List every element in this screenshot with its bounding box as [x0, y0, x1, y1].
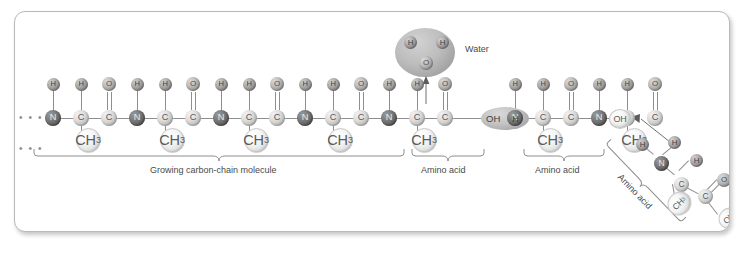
backbone-carbon-carbonyl-unit-4: C [353, 110, 369, 126]
methyl-group-unit-4-text: CH [327, 133, 348, 148]
bond-h-n-unit-4 [305, 91, 306, 111]
brace-amino-acid-2 [523, 148, 605, 162]
methyl-group-unit-1-text: CH [75, 133, 96, 148]
methyl-group-unit-5-text: CH [411, 133, 432, 148]
caption-amino-acid-1: Amino acid [421, 165, 466, 175]
incoming-hydrogen-2: H [668, 136, 681, 149]
backbone-carbon-carbonyl-unit-3: C [269, 110, 285, 126]
methyl-group-unit-5-subscript: 3 [432, 136, 437, 145]
bond-o-c-double-a-unit-4 [359, 92, 360, 110]
incoming-amino-acid-group: H H N H C CH3 C O OH [627, 132, 730, 232]
hydrogen-on-nitrogen-unit-1: H [47, 78, 60, 91]
diagram-stage: H H O Water • • • HHONCCCH3HHONCCCH3HHON… [0, 0, 750, 261]
incoming-oxygen: O [717, 173, 730, 187]
backbone-nitrogen-unit-4: N [297, 110, 313, 126]
bond-o-c-double-a-unit-2 [191, 92, 192, 110]
incoming-hydrogen-3: H [690, 154, 703, 167]
backbone-carbon-carbonyl-unit-2: C [185, 110, 201, 126]
chain-continuation-dots-left: • • • [19, 112, 43, 123]
bond-o-c-double-b-unit-2 [195, 92, 196, 110]
backbone-carbon-carbonyl-unit-5: C [437, 110, 453, 126]
backbone-carbon-alpha-unit-5: C [409, 110, 425, 126]
methyl-group-unit-1: CH3 [76, 128, 101, 153]
oxygen-on-carbon-unit-1: O [102, 77, 116, 91]
incoming-carbon-carboxyl: C [698, 189, 713, 204]
backbone-carbon-carbonyl-unit-6: C [563, 110, 579, 126]
bond-o-c-double-b-unit-1 [111, 92, 112, 110]
leaving-group-h-text: H [512, 113, 519, 124]
bond-o-c-double-b-unit-4 [363, 92, 364, 110]
methyl-group-unit-2: CH3 [160, 128, 185, 153]
bond-h-c-unit-5 [417, 91, 418, 111]
methyl-group-unit-2-subscript: 3 [180, 136, 185, 145]
hydrogen-on-carbon-unit-7: H [621, 78, 634, 91]
incoming-methyl-group: CH3 [663, 187, 697, 221]
methyl-group-unit-1-subscript: 3 [96, 136, 101, 145]
water-hydrogen-1: H [404, 36, 417, 49]
bond-h-n-unit-1 [53, 91, 54, 111]
hydrogen-on-carbon-unit-3: H [243, 78, 256, 91]
diagram-panel: H H O Water • • • HHONCCCH3HHONCCCH3HHON… [14, 11, 730, 232]
bond-o-c-double-a-unit-7 [653, 92, 654, 110]
bond-h-n-unit-2 [137, 91, 138, 111]
caption-growing-chain: Growing carbon-chain molecule [150, 165, 277, 175]
methyl-group-unit-6-subscript: 3 [558, 136, 563, 145]
methyl-group-unit-4-subscript: 3 [348, 136, 353, 145]
hydrogen-on-nitrogen-unit-6: H [509, 78, 522, 91]
methyl-group-unit-2-text: CH [159, 133, 180, 148]
incoming-hydroxyl-group: OH [714, 203, 730, 232]
hydrogen-on-carbon-unit-1: H [75, 78, 88, 91]
backbone-carbon-alpha-unit-1: C [73, 110, 89, 126]
hydrogen-on-carbon-unit-5: H [411, 78, 424, 91]
methyl-group-unit-4: CH3 [328, 128, 353, 153]
incoming-carbon-alpha: C [674, 177, 689, 192]
bond-o-c-double-a-unit-3 [275, 92, 276, 110]
backbone-nitrogen-unit-5: N [381, 110, 397, 126]
water-oxygen: O [419, 56, 433, 70]
oxygen-on-carbon-unit-2: O [186, 77, 200, 91]
hydrogen-on-carbon-unit-6: H [537, 78, 550, 91]
methyl-group-unit-3-text: CH [243, 133, 264, 148]
bond-h-c-unit-1 [81, 91, 82, 111]
oxygen-on-carbon-unit-4: O [354, 77, 368, 91]
bond-o-c-double-a-unit-5 [443, 92, 444, 110]
bond-h-n-unit-7 [599, 91, 600, 111]
hydrogen-on-nitrogen-unit-5: H [383, 78, 396, 91]
bond-h-c-unit-3 [249, 91, 250, 111]
bond-h-c-unit-4 [333, 91, 334, 111]
backbone-carbon-alpha-unit-3: C [241, 110, 257, 126]
backbone-carbon-alpha-unit-2: C [157, 110, 173, 126]
hydrogen-on-nitrogen-unit-4: H [299, 78, 312, 91]
bond-h-c-unit-7 [627, 91, 628, 111]
methyl-group-unit-6: CH3 [538, 128, 563, 153]
backbone-carbon-alpha-unit-6: C [535, 110, 551, 126]
backbone-nitrogen-unit-7: N [591, 110, 607, 126]
hydrogen-on-nitrogen-unit-2: H [131, 78, 144, 91]
methyl-group-unit-3: CH3 [244, 128, 269, 153]
bond-h-c-unit-6 [543, 91, 544, 111]
backbone-nitrogen-unit-2: N [129, 110, 145, 126]
bond-h-c-unit-2 [165, 91, 166, 111]
incoming-hydrogen-1: H [636, 138, 649, 151]
bond-o-c-double-b-unit-6 [573, 92, 574, 110]
bond-h-n-unit-3 [221, 91, 222, 111]
bond-o-c-double-b-unit-7 [657, 92, 658, 110]
water-hydrogen-2: H [436, 36, 449, 49]
bond-h-n-unit-5 [389, 91, 390, 111]
oxygen-on-carbon-unit-7: O [648, 77, 662, 91]
backbone-carbon-carbonyl-unit-1: C [101, 110, 117, 126]
hydrogen-on-nitrogen-unit-7: H [593, 78, 606, 91]
incoming-nitrogen: N [654, 156, 669, 171]
hydrogen-on-carbon-unit-4: H [327, 78, 340, 91]
oxygen-on-carbon-unit-5: O [438, 77, 452, 91]
backbone-nitrogen-unit-3: N [213, 110, 229, 126]
backbone-nitrogen-unit-1: N [45, 110, 61, 126]
backbone-carbon-carbonyl-unit-7: C [647, 110, 663, 126]
hydrogen-on-carbon-unit-2: H [159, 78, 172, 91]
leaving-group-oh-text: OH [486, 113, 500, 124]
bond-o-c-double-b-unit-3 [279, 92, 280, 110]
hydrogen-on-nitrogen-unit-3: H [215, 78, 228, 91]
caption-amino-acid-2: Amino acid [535, 165, 580, 175]
oxygen-on-carbon-unit-6: O [564, 77, 578, 91]
bond-o-c-double-a-unit-6 [569, 92, 570, 110]
